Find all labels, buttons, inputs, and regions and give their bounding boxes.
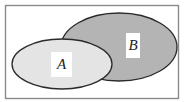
set-b-label: B — [126, 33, 140, 58]
set-a-label: A — [51, 52, 72, 77]
venn-svg — [0, 0, 184, 102]
